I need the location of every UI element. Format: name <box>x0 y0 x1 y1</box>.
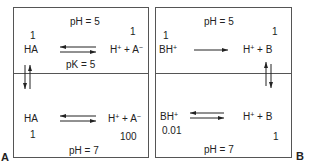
panel-b-box: pH = 5 1 1 BH+ H+ + B BH+ H+ + B 0.01 1 … <box>155 7 292 158</box>
forward-arrow-icon <box>192 46 232 54</box>
panel-b-top-right-species: H+ + B <box>243 45 272 55</box>
panel-a-bottom-right-species: H+ + A− <box>108 114 141 124</box>
panel-a-box: pH = 5 1 1 HA H+ + A− pK = 5 HA H+ + A− … <box>13 7 149 158</box>
panel-b-top-left-conc: 1 <box>163 31 169 41</box>
vertical-equilibrium-arrow-icon <box>264 60 274 90</box>
panel-a-top-ph: pH = 5 <box>70 17 100 27</box>
panel-a-top-pk: pK = 5 <box>66 60 95 70</box>
panel-b-bottom-left-species: BH+ <box>160 112 178 122</box>
panel-a-bottom-left-conc: 1 <box>30 130 36 140</box>
vertical-equilibrium-arrow-icon <box>23 63 33 91</box>
equilibrium-arrow-icon <box>58 45 98 55</box>
panel-b-bottom-ph: pH = 7 <box>204 145 234 155</box>
panel-a-bottom-ph: pH = 7 <box>69 146 99 156</box>
panel-a-top-left-species: HA <box>24 45 38 55</box>
panel-b-bottom-left-conc: 0.01 <box>162 126 181 136</box>
panel-a-bottom-right-conc: 100 <box>120 132 137 142</box>
panel-a-label: A <box>1 152 9 163</box>
panel-b-top-ph: pH = 5 <box>204 17 234 27</box>
panel-a-divider <box>14 73 148 74</box>
panel-a-bottom-left-species: HA <box>24 114 38 124</box>
panel-a-top-right-species: H+ + A− <box>110 45 143 55</box>
panel-b-bottom-right-species: H+ + B <box>243 112 272 122</box>
equilibrium-arrow-icon <box>188 111 228 121</box>
panel-a-top-left-conc: 1 <box>30 31 36 41</box>
panel-b-top-right-conc: 1 <box>272 27 278 37</box>
panel-b-bottom-right-conc: 1 <box>273 132 279 142</box>
panel-a-top-right-conc: 1 <box>130 27 136 37</box>
panel-b-label: B <box>296 151 304 162</box>
equilibrium-arrow-icon <box>58 114 98 124</box>
panel-b-top-left-species: BH+ <box>159 45 177 55</box>
